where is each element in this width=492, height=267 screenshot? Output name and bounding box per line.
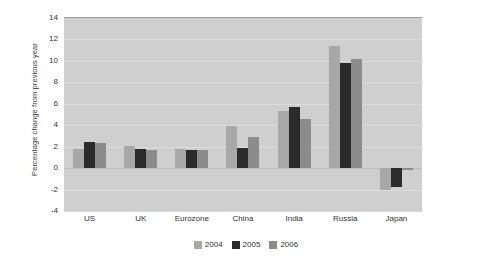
bar-india-2005 [289,107,300,168]
bars [371,18,422,211]
bars [320,18,371,211]
legend-item-2006[interactable]: 2006 [269,240,298,249]
bar-china-2006 [248,137,259,168]
legend-swatch-icon-2005 [232,241,240,249]
y-tick-2: 2 [54,141,58,150]
x-label-russia: Russia [320,214,371,223]
y-tick-10: 10 [49,55,58,64]
x-label-uk: UK [115,214,166,223]
chart-legend: 200420052006 [0,240,492,249]
bar-russia-2006 [351,59,362,168]
bar-us-2004 [73,149,84,168]
bar-chart-figure: Percentage change from previous year 141… [0,0,492,267]
bar-russia-2004 [329,46,340,168]
legend-swatch-icon-2006 [269,241,277,249]
bar-uk-2004 [124,146,135,169]
bar-group-eurozone [166,18,217,211]
x-axis-tick-labels: USUKEurozoneChinaIndiaRussiaJapan [64,214,422,223]
y-tick-8: 8 [54,77,58,86]
bars [115,18,166,211]
bar-group-japan [371,18,422,211]
bar-china-2005 [237,148,248,168]
bar-china-2004 [226,126,237,168]
y-tick-6: 6 [54,98,58,107]
gridline-neg4 [64,211,422,212]
bar-russia-2005 [340,63,351,168]
y-tick-0: 0 [54,163,58,172]
bar-groups [64,18,422,211]
bars [166,18,217,211]
bar-group-us [64,18,115,211]
bar-group-india [269,18,320,211]
bars [64,18,115,211]
legend-swatch-icon-2004 [194,241,202,249]
y-axis-tick-labels: 14121086420-2-4 [34,17,58,210]
bar-japan-2006 [402,168,413,170]
bar-eurozone-2005 [186,150,197,168]
y-tick-neg2: -2 [51,184,58,193]
legend-label-2004: 2004 [205,240,223,249]
bars [217,18,268,211]
y-tick-4: 4 [54,120,58,129]
y-tick-neg4: -4 [51,206,58,215]
bar-us-2005 [84,142,95,168]
bar-uk-2006 [146,150,157,168]
bar-japan-2004 [380,168,391,189]
bar-india-2006 [300,119,311,168]
bar-us-2006 [95,143,106,168]
bar-india-2004 [278,111,289,168]
y-tick-12: 12 [49,34,58,43]
legend-item-2005[interactable]: 2005 [232,240,261,249]
plot-area [64,17,422,211]
x-label-china: China [217,214,268,223]
bar-japan-2005 [391,168,402,187]
legend-item-2004[interactable]: 2004 [194,240,223,249]
x-label-japan: Japan [371,214,422,223]
x-label-us: US [64,214,115,223]
bars [269,18,320,211]
bar-group-china [217,18,268,211]
x-label-eurozone: Eurozone [166,214,217,223]
bar-uk-2005 [135,149,146,168]
bar-eurozone-2004 [175,149,186,168]
legend-label-2006: 2006 [280,240,298,249]
bar-group-russia [320,18,371,211]
legend-label-2005: 2005 [243,240,261,249]
bar-group-uk [115,18,166,211]
y-tick-14: 14 [49,13,58,22]
bar-eurozone-2006 [197,150,208,168]
x-label-india: India [269,214,320,223]
